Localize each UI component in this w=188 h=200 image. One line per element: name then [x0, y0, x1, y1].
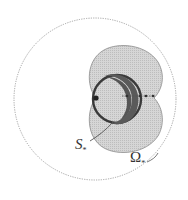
s-label-sub: *	[83, 146, 87, 155]
s-label-main: S	[75, 136, 83, 152]
omega-label-sub: *	[141, 159, 145, 168]
omega-star-leader	[147, 153, 158, 162]
segment-point	[139, 95, 142, 98]
contact-point	[93, 95, 98, 100]
s-star-label: S*	[75, 137, 87, 155]
segment-point	[145, 95, 148, 98]
diagram-canvas	[0, 0, 188, 200]
segment-point	[152, 95, 155, 98]
omega-label-main: Ω	[130, 149, 141, 165]
omega-region	[89, 46, 162, 153]
segment-point	[126, 95, 129, 98]
omega-star-label: Ω*	[130, 150, 145, 168]
